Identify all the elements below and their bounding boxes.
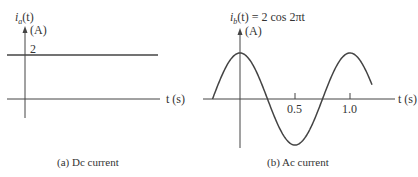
panel-a-x-label: t (s): [166, 92, 185, 107]
panel-b-y-unit: (A): [245, 24, 262, 39]
panel-b-tick-label-1-0: 1.0: [342, 102, 357, 117]
panel-b-x-label: t (s): [398, 92, 417, 107]
panel-b-plot: [203, 28, 395, 148]
panel-b-caption: (b) Ac current: [267, 156, 329, 168]
panel-a-caption: (a) Dc current: [57, 156, 119, 168]
panel-b-y-label: ib(t) = 2 cos 2πt: [230, 10, 305, 26]
panel-a-y-unit: (A): [30, 23, 47, 38]
panel-a-level-label: 2: [30, 42, 36, 57]
panel-b-y-arrow-icon: [238, 28, 243, 35]
panel-a-plot: [7, 26, 160, 118]
figure-canvas: [0, 0, 418, 177]
panel-b-tick-label-0-5: 0.5: [287, 102, 302, 117]
panel-a-y-arrow-icon: [23, 26, 28, 33]
